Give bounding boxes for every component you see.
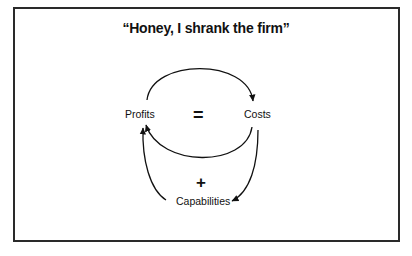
edge-costs-to-profits [146, 125, 252, 158]
edge-costs-to-capabilities [232, 130, 258, 201]
node-capabilities: Capabilities [176, 195, 230, 207]
reinforcing-loop-sign: + [196, 174, 206, 191]
node-costs: Costs [244, 108, 271, 120]
balancing-loop-sign: = [193, 106, 204, 124]
causal-loop-arrows [0, 0, 412, 256]
edge-profits-to-costs [147, 69, 253, 101]
node-profits: Profits [125, 108, 155, 120]
